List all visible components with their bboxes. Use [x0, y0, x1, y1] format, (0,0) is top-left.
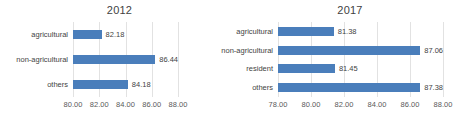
bar-row: agricultural81.38	[278, 27, 443, 36]
bar-value-label: 86.44	[159, 55, 178, 64]
bar-value-label: 81.45	[339, 64, 358, 73]
bar-value-label: 84.18	[132, 80, 151, 89]
bar-value-label: 81.38	[338, 27, 357, 36]
axis-tick-label: 82.00	[90, 100, 109, 109]
axis-tick-label: 78.00	[269, 100, 288, 109]
axis-tick-label: 88.00	[169, 100, 188, 109]
axis-tick-label: 82.00	[335, 100, 354, 109]
bar[interactable]	[278, 64, 335, 73]
bar-row: others84.18	[73, 80, 178, 89]
bar[interactable]	[73, 80, 128, 89]
axis-tick-label: 86.00	[401, 100, 420, 109]
bar[interactable]	[73, 55, 155, 64]
axis-tick-label: 80.00	[302, 100, 321, 109]
chart-title-2012: 2012	[7, 4, 232, 16]
bar-row: others87.38	[278, 83, 443, 92]
bar-rows-2012: agricultural82.18non-agricultural86.44ot…	[73, 22, 178, 97]
gridline	[443, 22, 444, 97]
bar[interactable]	[278, 83, 420, 92]
axis-tick-label: 84.00	[368, 100, 387, 109]
x-axis-2012: 80.0082.0084.0086.0088.00	[73, 100, 178, 112]
category-label: others	[47, 80, 68, 89]
category-label: non-agricultural	[16, 55, 68, 64]
bar-value-label: 87.38	[424, 83, 443, 92]
bar[interactable]	[278, 46, 420, 55]
bar-rows-2017: agricultural81.38non-agricultural87.06re…	[278, 22, 443, 97]
bar-row: non-agricultural87.06	[278, 46, 443, 55]
bar-value-label: 82.18	[106, 30, 125, 39]
category-label: non-agricultural	[221, 46, 273, 55]
bar[interactable]	[278, 27, 334, 36]
axis-tick-label: 80.00	[64, 100, 83, 109]
x-axis-2017: 78.0080.0082.0084.0086.0088.00	[278, 100, 443, 112]
bar-row: agricultural82.18	[73, 30, 178, 39]
category-label: agricultural	[31, 30, 68, 39]
chart-title-2017: 2017	[238, 4, 457, 16]
bar-row: resident81.45	[278, 64, 443, 73]
plot-area-2012: agricultural82.18non-agricultural86.44ot…	[73, 22, 178, 97]
category-label: others	[252, 83, 273, 92]
axis-tick-label: 88.00	[434, 100, 453, 109]
chart-2012: 2012 agricultural82.18non-agricultural86…	[0, 0, 225, 124]
category-label: agricultural	[236, 27, 273, 36]
gridline	[178, 22, 179, 97]
category-label: resident	[246, 64, 273, 73]
bar-row: non-agricultural86.44	[73, 55, 178, 64]
chart-2017: 2017 agricultural81.38non-agricultural87…	[225, 0, 449, 124]
axis-tick-label: 86.00	[142, 100, 161, 109]
plot-area-2017: agricultural81.38non-agricultural87.06re…	[278, 22, 443, 97]
axis-tick-label: 84.00	[116, 100, 135, 109]
bar-value-label: 87.06	[424, 46, 443, 55]
bar[interactable]	[73, 30, 102, 39]
